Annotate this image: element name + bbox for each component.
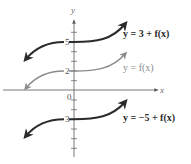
graph-canvas: y x 0 5 2 3 y = 3 + f(x) y = f(x) y = −5… bbox=[0, 0, 191, 164]
curve-label-shift-up-3: y = 3 + f(x) bbox=[123, 28, 169, 40]
curve-label-base-f: y = f(x) bbox=[123, 62, 154, 74]
curve-base-f bbox=[26, 54, 125, 88]
curve-shift-down-5 bbox=[26, 102, 125, 136]
tick-label-2: 2 bbox=[65, 66, 70, 76]
tick-label-neg3: 3 bbox=[65, 114, 70, 124]
tick-label-5: 5 bbox=[65, 37, 70, 47]
curve-shift-up-3 bbox=[26, 24, 125, 59]
curve-label-shift-down-5: y = −5 + f(x) bbox=[123, 112, 175, 124]
y-axis-label: y bbox=[70, 5, 75, 15]
origin-label: 0 bbox=[67, 92, 72, 102]
x-axis-label: x bbox=[159, 85, 164, 95]
